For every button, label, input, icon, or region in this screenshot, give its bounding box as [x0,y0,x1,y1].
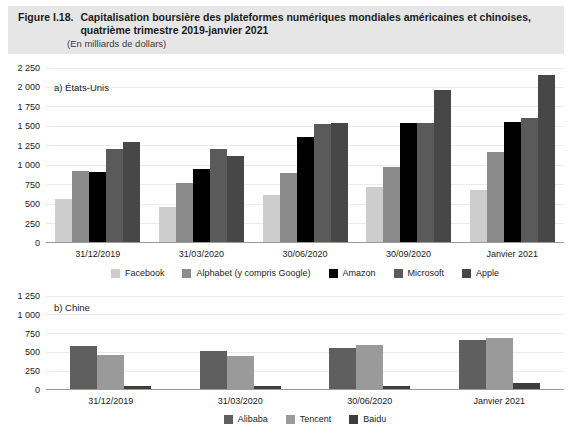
bar-alphabet-y-compris-google [383,167,400,242]
bar-facebook [470,190,487,242]
bar-tencent [356,345,383,389]
legend-swatch-icon [286,415,295,424]
bar-microsoft [521,118,538,242]
y-axis-tick-label: 0 [35,239,40,248]
bar-alibaba [70,346,97,389]
bar-tencent [97,355,124,389]
x-axis-tick-label: Janvier 2021 [435,396,565,406]
bar-alibaba [329,348,356,389]
bar-amazon [400,123,417,242]
legend-swatch-icon [182,269,191,278]
panel-china: 02505007501 0001 250 b) Chine 31/12/2019… [0,288,572,440]
x-axis-tick-label: 30/09/2020 [357,249,461,259]
legend-swatch-icon [349,415,358,424]
legend-swatch-icon [394,269,403,278]
plot-area-united-states [46,68,564,243]
figure-title-band: Figure I.18. Capitalisation boursière de… [8,6,564,54]
legend-item: Tencent [286,414,332,424]
bar-microsoft [210,149,227,242]
legend-swatch-icon [329,269,338,278]
y-axis-tick-label: 1 250 [17,141,40,150]
x-axis-tick-label: 31/12/2019 [46,249,150,259]
y-axis-tick-label: 1 000 [17,161,40,170]
bar-facebook [55,199,72,242]
panel-label-united-states: a) États-Unis [54,82,109,93]
legend-swatch-icon [224,415,233,424]
bar-amazon [89,172,106,242]
y-axis-tick-label: 1 000 [17,310,40,319]
legend-label: Alphabet (y compris Google) [196,268,310,278]
figure-subtitle: (En milliards de dollars) [67,38,556,50]
bar-group [329,296,410,389]
legend-label: Alibaba [238,414,268,424]
bar-apple [227,156,244,242]
legend-swatch-icon [462,269,471,278]
legend-item: Amazon [329,268,376,278]
x-axis-tick-label: 31/03/2020 [150,249,254,259]
y-axis-tick-label: 2 250 [17,64,40,73]
x-axis-tick-label: Janvier 2021 [460,249,564,259]
legend-label: Baidu [363,414,386,424]
bar-facebook [263,195,280,242]
legend-label: Microsoft [408,268,445,278]
bar-group [55,68,140,242]
bar-microsoft [106,149,123,242]
bar-group [470,68,555,242]
bar-microsoft [417,123,434,242]
legend-china: AlibabaTencentBaidu [46,412,564,426]
figure-number: Figure I.18. [18,11,73,24]
x-axis-tick-label: 31/12/2019 [46,396,176,406]
page-title: Capitalisation boursière des plateformes… [80,11,556,37]
bar-group [263,68,348,242]
bar-group [366,68,451,242]
bar-apple [331,123,348,242]
legend-label: Facebook [125,268,165,278]
legend-swatch-icon [111,269,120,278]
bar-amazon [193,169,210,242]
y-axis-tick-label: 250 [25,219,40,228]
x-axis-tick-label: 30/06/2020 [253,249,357,259]
bar-group [200,296,281,389]
y-axis-tick-label: 250 [25,367,40,376]
bar-tencent [486,338,513,389]
bar-apple [434,90,451,242]
legend-item: Baidu [349,414,386,424]
bar-apple [538,75,555,242]
bar-baidu [513,383,540,389]
bar-group [459,296,540,389]
figure-title-row: Figure I.18. Capitalisation boursière de… [18,11,556,37]
legend-item: Alibaba [224,414,268,424]
x-axis-united-states: 31/12/201931/03/202030/06/202030/09/2020… [46,247,564,261]
y-axis-tick-label: 0 [35,386,40,395]
legend-item: Apple [462,268,499,278]
legend-item: Facebook [111,268,165,278]
bar-alphabet-y-compris-google [72,171,89,242]
x-axis-china: 31/12/201931/03/202030/06/2020Janvier 20… [46,394,564,408]
y-axis-tick-label: 750 [25,180,40,189]
bar-baidu [383,386,410,389]
bar-tencent [227,356,254,389]
panel-label-china: b) Chine [54,302,90,313]
y-axis-tick-label: 500 [25,200,40,209]
y-axis-tick-label: 750 [25,329,40,338]
bar-alibaba [200,351,227,389]
bar-alphabet-y-compris-google [176,183,193,242]
legend-label: Amazon [343,268,376,278]
y-axis-tick-label: 1 750 [17,102,40,111]
y-axis-tick-label: 2 000 [17,83,40,92]
legend-item: Alphabet (y compris Google) [182,268,310,278]
y-axis-united-states: 02505007501 0001 2501 5001 7502 0002 250 [0,68,40,243]
bar-facebook [159,207,176,242]
y-axis-tick-label: 1 500 [17,122,40,131]
bar-apple [123,142,140,242]
bar-alphabet-y-compris-google [280,173,297,242]
bar-baidu [124,386,151,389]
y-axis-tick-label: 500 [25,348,40,357]
bar-amazon [297,137,314,242]
bar-baidu [254,386,281,389]
bar-alibaba [459,340,486,389]
bar-microsoft [314,124,331,242]
legend-united-states: FacebookAlphabet (y compris Google)Amazo… [46,266,564,280]
figure-container: Figure I.18. Capitalisation boursière de… [0,0,572,440]
legend-label: Tencent [300,414,332,424]
